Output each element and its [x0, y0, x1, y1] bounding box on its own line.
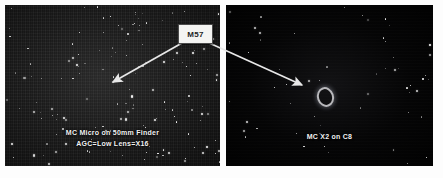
figure-root: MC Micro on 50mm Finder AGC=Low Lens=X16…: [0, 0, 443, 178]
m57-callout-label: M57: [178, 24, 213, 44]
m57-callout-text: M57: [187, 30, 203, 39]
panel-right-caption-line1: MC X2 on C8: [226, 131, 433, 142]
panel-left-caption-line2: AGC=Low Lens=X16: [5, 138, 220, 149]
panel-right-caption: MC X2 on C8: [226, 131, 433, 142]
panel-left-caption-line1: MC Micro on 50mm Finder: [5, 127, 220, 138]
image-panel-right: MC X2 on C8: [226, 5, 433, 166]
panel-left-caption: MC Micro on 50mm Finder AGC=Low Lens=X16: [5, 127, 220, 149]
